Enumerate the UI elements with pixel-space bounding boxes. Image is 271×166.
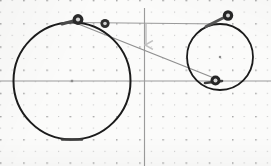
marker-inner-dot bbox=[214, 79, 218, 83]
tangent-point-upper-right bbox=[223, 10, 233, 20]
diagram-canvas bbox=[0, 0, 271, 166]
tangent-point-lower-right bbox=[211, 76, 221, 86]
tangent-point-upper-left bbox=[73, 14, 84, 25]
small-circle-center-dot bbox=[219, 56, 221, 58]
geometry-figure bbox=[0, 0, 271, 166]
marker-inner-dot bbox=[76, 17, 80, 21]
marker-inner-dot bbox=[103, 22, 107, 26]
tangent-point-secondary bbox=[100, 19, 109, 28]
large-circle-center-dot bbox=[71, 80, 73, 82]
marker-inner-dot bbox=[226, 14, 230, 18]
